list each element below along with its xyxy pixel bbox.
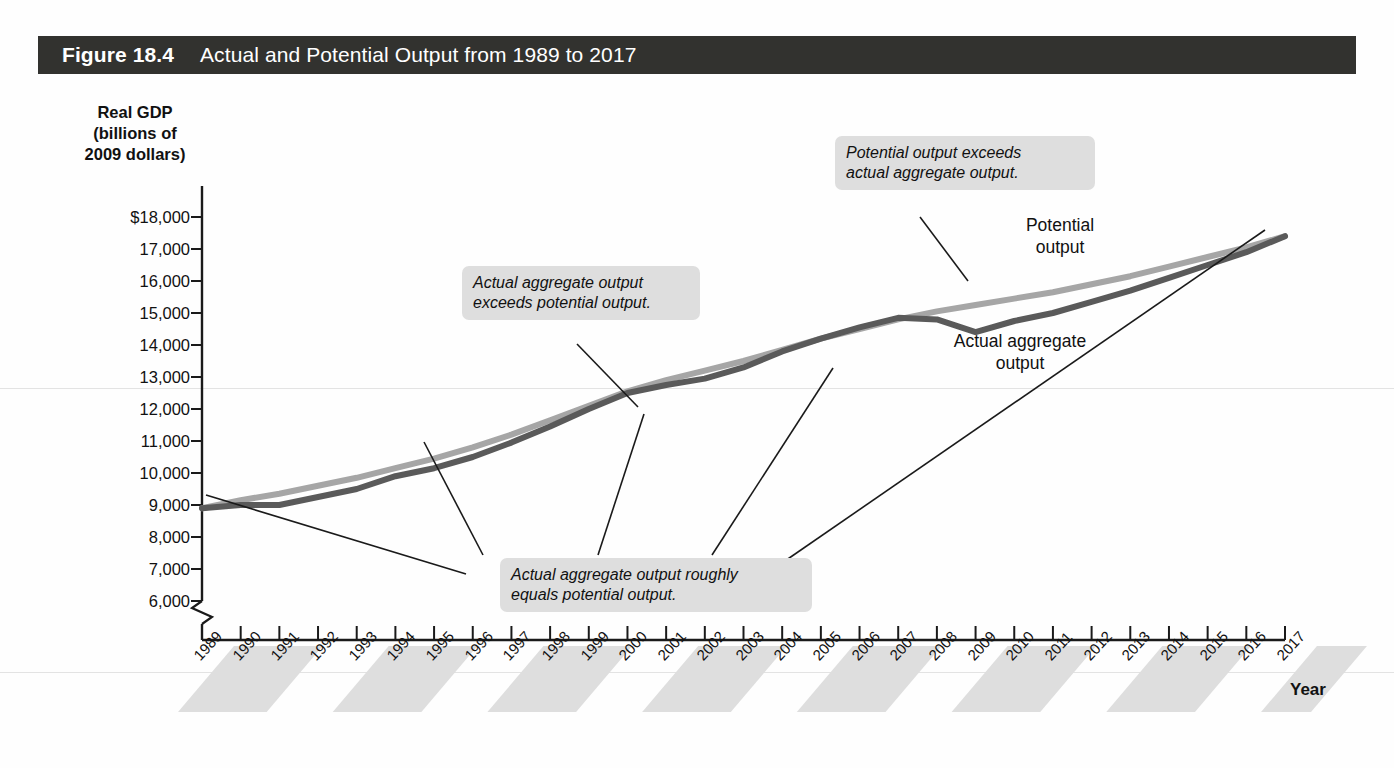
chart-area: Real GDP (billions of 2009 dollars) $18,… (0, 74, 1394, 768)
actual-output-label-line1: Actual aggregate (925, 330, 1115, 352)
figure-title: Actual and Potential Output from 1989 to… (200, 43, 636, 67)
callout-line-2: equals potential output. (511, 585, 801, 605)
potential-output-label-line1: Potential (1000, 214, 1120, 236)
y-tick-marks (191, 217, 202, 601)
callout-line-1: Actual aggregate output (473, 273, 689, 293)
callout-actual-exceeds-potential: Actual aggregate output exceeds potentia… (462, 266, 700, 320)
callout-actual-equals-potential: Actual aggregate output roughly equals p… (500, 558, 812, 612)
x-axis-title: Year (1290, 680, 1326, 700)
figure-title-bar: Figure 18.4 Actual and Potential Output … (38, 36, 1356, 74)
actual-output-label: Actual aggregate output (925, 330, 1115, 374)
actual-output-label-line2: output (925, 352, 1115, 374)
potential-output-label-line2: output (1000, 236, 1120, 258)
callout-line-2: actual aggregate output. (846, 163, 1084, 183)
plot-svg (0, 74, 1394, 768)
potential-output-label: Potential output (1000, 214, 1120, 258)
callout-line-1: Actual aggregate output roughly (511, 565, 801, 585)
figure-number: Figure 18.4 (62, 43, 174, 67)
callout-leader-lines (206, 217, 1265, 574)
ghost-text-top (190, 2, 1240, 22)
callout-line-1: Potential output exceeds (846, 143, 1084, 163)
callout-line-2: exceeds potential output. (473, 293, 689, 313)
callout-potential-exceeds-actual: Potential output exceeds actual aggregat… (835, 136, 1095, 190)
potential-output-line (202, 236, 1285, 508)
